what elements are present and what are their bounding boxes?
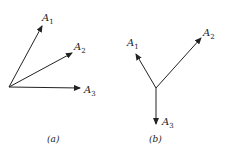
caption-a: (a)	[47, 134, 59, 144]
vector-b1-arrow	[136, 54, 156, 88]
label-b1: A1	[127, 38, 139, 51]
vector-diagram: A1 A2 A3 (a) A1 A2 A3 (b)	[0, 0, 225, 155]
vector-b2-arrow	[156, 38, 201, 88]
label-b3: A3	[162, 117, 174, 130]
caption-b: (b)	[149, 134, 162, 144]
label-b2: A2	[203, 28, 215, 41]
label-a1: A1	[42, 13, 54, 26]
label-a3: A3	[84, 85, 96, 98]
label-a2: A2	[74, 42, 86, 55]
vector-arrows	[0, 0, 225, 155]
vector-a3-arrow	[9, 87, 80, 88]
